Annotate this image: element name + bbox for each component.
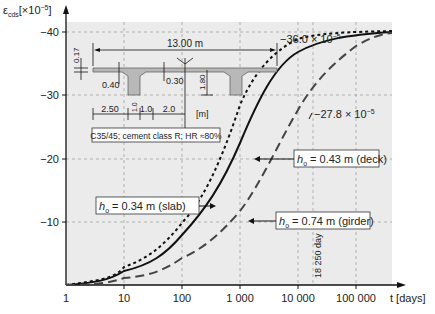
y-tick-label: −10	[40, 216, 59, 228]
dim-10a: 1.0	[131, 102, 138, 112]
y-tick-label: −30	[40, 89, 59, 101]
annotation-deck-final: −36.0 × 10−5	[280, 33, 341, 45]
label-girder: ho = 0.74 m (girder)	[279, 215, 374, 229]
dim-180: 1.80	[198, 74, 207, 90]
x-tick-label: 100 000	[336, 292, 376, 304]
dim-040: 0.40	[102, 80, 120, 90]
x-tick-label: 100	[173, 292, 191, 304]
y-axis-arrow-icon	[63, 5, 69, 14]
dim-250: 2.50	[101, 104, 119, 114]
annotation-girder-final: −27.8 × 10−5	[314, 108, 375, 120]
x-tick-label: 1	[63, 292, 69, 304]
shrinkage-chart: −40 −30 −20 −10 1 10 100 1 000 10 000 10…	[0, 0, 435, 314]
material-note: C35/45; cement class R; HR ≈80%	[90, 131, 222, 141]
x-axis-arrow-icon	[397, 282, 406, 288]
dim-20: 2.0	[163, 104, 176, 114]
label-deck: ho = 0.43 m (deck)	[297, 153, 387, 167]
x-tick-label: 10	[118, 292, 130, 304]
day-line-label: 18 250 day	[313, 233, 323, 278]
x-axis-label: t [days]	[390, 292, 425, 304]
y-axis-label: εcds[×10−5]	[3, 4, 52, 18]
dim-030: 0.30	[166, 76, 184, 86]
dim-unit: [m]	[196, 109, 209, 119]
dim-017: 0.17	[72, 47, 81, 63]
dim-width: 13.00 m	[167, 38, 203, 49]
dim-10b: 1.0	[140, 104, 153, 114]
y-tick-label: −40	[40, 26, 59, 38]
y-tick-label: −20	[40, 153, 59, 165]
x-tick-label: 1 000	[226, 292, 254, 304]
label-slab: ho = 0.34 m (slab)	[99, 200, 186, 214]
x-tick-label: 10 000	[281, 292, 315, 304]
